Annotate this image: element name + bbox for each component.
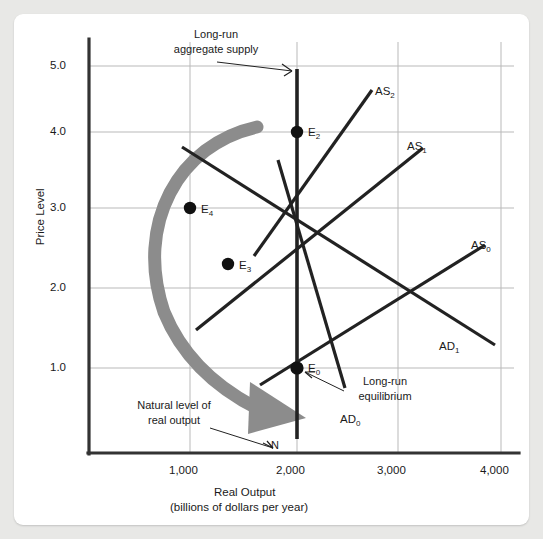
e3-label-text: E [239,259,247,271]
y-tick-5: 5.0 [50,59,66,73]
as1-label-text: AS [407,140,422,152]
e3-label: E3 [239,259,251,275]
point-e2 [291,126,303,138]
lras-callout-line1: Long-run [161,28,271,41]
as0-label-text: AS [471,239,486,251]
as1-label: AS1 [407,140,427,156]
point-e4 [184,202,196,214]
equilibrium-points [184,126,304,375]
equilibrium-callout-line1: Long-run [346,375,424,388]
as1-label-sub: 1 [422,146,426,155]
e2-label-text: E [308,126,316,138]
x-tick-1000: 1,000 [169,464,198,478]
natural-callout-line1: Natural level of [119,399,229,412]
e4-label: E4 [201,203,213,219]
point-e0 [290,361,303,374]
x-tick-3000: 3,000 [377,464,406,478]
lras-callout-line2: aggregate supply [146,43,286,56]
as2-label-text: AS [375,85,390,97]
as2-label-sub: 2 [390,91,394,100]
natural-callout-line2: real output [127,414,221,427]
ad1-label: AD1 [439,340,459,356]
e3-label-sub: 3 [247,265,251,274]
figure-card: Price Level 5.0 4.0 3.0 2.0 1.0 1,000 2,… [14,14,529,525]
y-tick-4: 4.0 [50,125,66,139]
leader-natural [210,428,273,448]
e2-label: E2 [308,126,320,142]
x-tick-2000: 2,000 [276,464,305,478]
e0-label-text: E [308,362,316,374]
point-e3 [222,258,234,270]
y-tick-1: 1.0 [50,361,66,375]
as2-label: AS2 [375,85,395,101]
as0-label-sub: 0 [486,245,490,254]
e2-label-sub: 2 [316,132,320,141]
y-axis-title: Price Level [34,174,48,260]
natural-level-marker: N [271,439,279,452]
ad0-label: AD0 [340,413,360,429]
y-tick-3: 3.0 [50,201,66,215]
x-axis-title-line2: (billions of dollars per year) [170,501,308,515]
ad1-label-sub: 1 [455,346,459,355]
equilibrium-callout-line2: equilibrium [346,390,424,403]
ad0-label-text: AD [340,413,356,425]
e4-label-text: E [201,203,209,215]
ad1-label-text: AD [439,340,455,352]
x-axis-title-line1: Real Output [214,486,275,500]
ad1-curve [182,147,495,345]
y-tick-2: 2.0 [50,281,66,295]
e4-label-sub: 4 [209,209,213,218]
e0-label: E0 [308,362,320,378]
e0-label-sub: 0 [316,368,320,377]
x-tick-4000: 4,000 [480,464,509,478]
as0-label: AS0 [471,239,491,255]
ad0-label-sub: 0 [356,419,360,428]
